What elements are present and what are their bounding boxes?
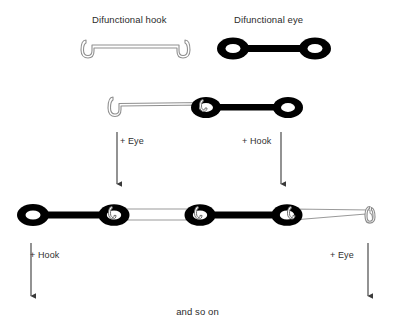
difunctional-hook-monomer <box>81 40 190 58</box>
arrow-label-add-hook-top: + Hook <box>242 136 271 146</box>
arrow-label-add-eye-top: + Eye <box>120 136 144 146</box>
diagram-canvas: Difunctional hook Difunctional eye + Eye… <box>0 0 395 331</box>
polymerization-diagram <box>0 0 395 331</box>
difunctional-eye-monomer <box>217 38 331 60</box>
dimer-eye-unit <box>191 97 303 118</box>
and-so-on-caption: and so on <box>0 306 395 317</box>
arrow-label-add-eye-bottom: + Eye <box>330 250 354 260</box>
arrow-label-add-hook-bottom: + Hook <box>30 250 59 260</box>
difunctional-eye-title: Difunctional eye <box>234 14 303 25</box>
oligomer-chain <box>17 204 375 226</box>
oligomer-hook-unit-2 <box>293 207 375 224</box>
difunctional-hook-title: Difunctional hook <box>92 14 167 25</box>
dimer-assembly <box>108 97 303 118</box>
